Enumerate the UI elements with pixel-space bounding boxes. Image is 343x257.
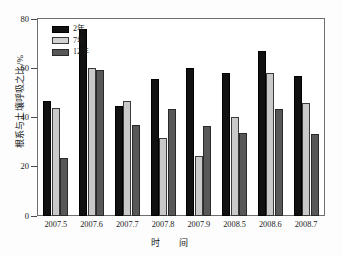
bar-group (294, 19, 319, 216)
bar-2007.8-2年[interactable] (151, 79, 159, 216)
bar-2008.6-2年[interactable] (258, 51, 266, 216)
bar-group (186, 19, 211, 216)
bar-2007.5-7年[interactable] (52, 108, 60, 216)
chart-legend: 2年7年12年 (49, 22, 93, 61)
bar-2008.5-12年[interactable] (239, 133, 247, 216)
bar-2007.8-12年[interactable] (168, 109, 176, 216)
legend-swatch-icon (52, 26, 69, 33)
legend-swatch-icon (52, 37, 69, 44)
bar-group (258, 19, 283, 216)
bar-chart-figure: 根系与土壤呼吸之比/% 020406080 2007.52007.62007.7… (0, 0, 343, 257)
x-axis-tick-label: 2007.6 (72, 220, 112, 229)
y-axis-title: 根系与土壤呼吸之比/% (13, 27, 26, 177)
bar-group (115, 19, 140, 216)
legend-label: 2年 (73, 25, 85, 33)
legend-swatch-icon (52, 49, 69, 56)
bar-2008.6-7年[interactable] (266, 73, 274, 216)
bar-2008.7-12年[interactable] (311, 134, 319, 216)
bar-2008.5-7年[interactable] (231, 117, 239, 216)
x-axis-tick-label: 2008.7 (286, 220, 326, 229)
bar-2007.6-12年[interactable] (96, 70, 104, 216)
legend-item-7年[interactable]: 7年 (52, 36, 89, 46)
bar-2007.6-7年[interactable] (88, 68, 96, 216)
bar-2007.9-12年[interactable] (203, 126, 211, 216)
bar-2007.5-12年[interactable] (60, 158, 68, 216)
y-axis-tick (31, 117, 37, 118)
bar-2008.6-12年[interactable] (275, 109, 283, 216)
x-axis-tick-label: 2007.8 (143, 220, 183, 229)
legend-label: 12年 (73, 48, 89, 56)
legend-item-12年[interactable]: 12年 (52, 47, 89, 57)
legend-label: 7年 (73, 37, 85, 45)
x-axis-tick-label: 2008.5 (215, 220, 255, 229)
y-axis-tick-label: 40 (3, 113, 29, 122)
bar-2008.7-7年[interactable] (302, 103, 310, 216)
bar-2007.7-2年[interactable] (115, 106, 123, 216)
bar-2007.5-2年[interactable] (43, 101, 51, 216)
y-axis-tick-label: 20 (3, 162, 29, 171)
bar-2008.7-2年[interactable] (294, 76, 302, 216)
y-axis-tick (31, 19, 37, 20)
bar-group (151, 19, 176, 216)
y-axis-tick-label: 0 (3, 212, 29, 221)
y-axis-tick-label: 60 (3, 64, 29, 73)
y-axis-tick (31, 216, 37, 217)
x-axis-tick-label: 2007.5 (36, 220, 76, 229)
bar-group (222, 19, 247, 216)
bar-2007.7-12年[interactable] (132, 125, 140, 216)
legend-item-2年[interactable]: 2年 (52, 24, 89, 34)
y-axis-tick (31, 166, 37, 167)
bar-2007.9-7年[interactable] (195, 156, 203, 216)
x-axis-tick-label: 2007.9 (179, 220, 219, 229)
bar-2007.7-7年[interactable] (123, 101, 131, 216)
bar-2007.9-2年[interactable] (186, 68, 194, 216)
bar-2007.8-7年[interactable] (159, 138, 167, 216)
bar-2008.5-2年[interactable] (222, 73, 230, 216)
x-axis-title: 时 间 (0, 236, 343, 249)
y-axis-tick (31, 68, 37, 69)
y-axis-tick-label: 80 (3, 15, 29, 24)
x-axis-tick-label: 2008.6 (250, 220, 290, 229)
x-axis-tick-label: 2007.7 (107, 220, 147, 229)
